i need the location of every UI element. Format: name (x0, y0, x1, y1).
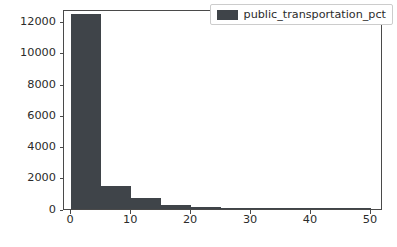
histogram-bar (311, 208, 341, 209)
legend-swatch-public-transportation-pct (217, 10, 238, 20)
histogram-bar (161, 205, 191, 209)
histogram-bar (281, 208, 311, 209)
histogram-bar (71, 14, 101, 209)
x-tick-mark (70, 210, 71, 214)
x-tick-label: 50 (350, 213, 390, 226)
x-tick-label: 20 (170, 213, 210, 226)
histogram-bar (221, 208, 251, 209)
histogram-bar (251, 208, 281, 209)
x-tick-mark (190, 210, 191, 214)
legend-label-public-transportation-pct: public_transportation_pct (244, 9, 386, 20)
y-tick-label: 12000 (12, 15, 56, 28)
x-tick-label: 10 (110, 213, 150, 226)
y-tick-label: 10000 (12, 46, 56, 59)
y-tick-label: 2000 (12, 171, 56, 184)
chart-legend: public_transportation_pct (210, 4, 393, 25)
histogram-figure: Frequency 020004000600080001000012000 01… (0, 0, 397, 247)
y-tick-label: 8000 (12, 78, 56, 91)
x-tick-label: 0 (50, 213, 90, 226)
histogram-bar (131, 198, 161, 209)
x-tick-mark (250, 210, 251, 214)
x-tick-mark (370, 210, 371, 214)
x-tick-mark (310, 210, 311, 214)
y-tick-label: 4000 (12, 140, 56, 153)
histogram-bar (101, 186, 131, 209)
x-tick-mark (130, 210, 131, 214)
histogram-bar (341, 208, 371, 209)
plot-area (63, 10, 382, 210)
histogram-bars (64, 11, 381, 209)
x-tick-label: 40 (290, 213, 330, 226)
x-tick-label: 30 (230, 213, 270, 226)
histogram-bar (191, 207, 221, 209)
y-tick-label: 6000 (12, 109, 56, 122)
